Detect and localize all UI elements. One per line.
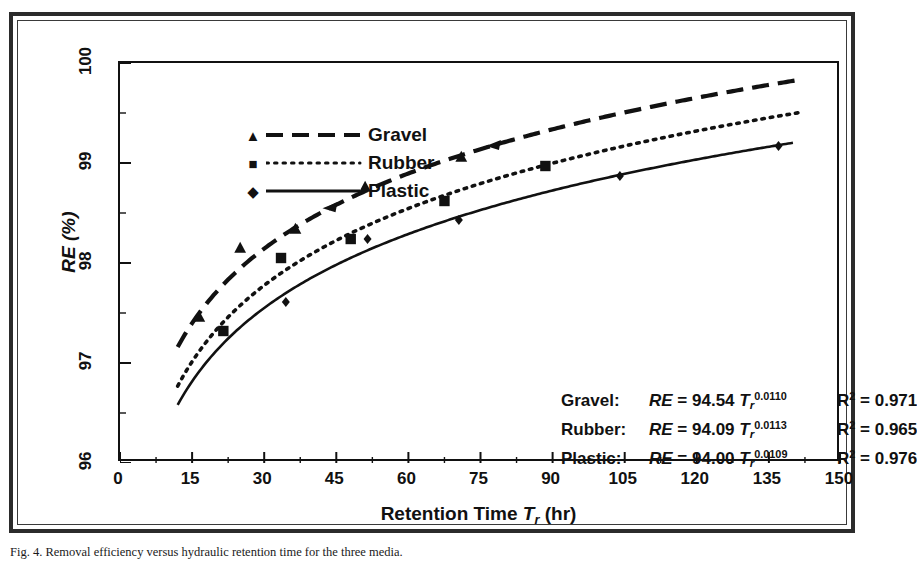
x-tick-label-30: 30 [239, 469, 285, 489]
data-point-plastic [616, 171, 624, 181]
series-curve-gravel [178, 79, 803, 347]
equation-coefficient: 94.00 [692, 449, 735, 468]
data-point-rubber [540, 161, 550, 171]
y-tick-label-97: 97 [76, 340, 96, 382]
y-tick-label-98: 98 [76, 240, 96, 282]
chart-legend: ▲Gravel■Rubber◆Plastic [242, 121, 435, 205]
triangle-marker-icon: ▲ [242, 128, 264, 143]
x-axis-title-subscript: r [534, 512, 539, 527]
y-tick-label-100: 100 [76, 40, 96, 82]
r-squared-value: = 0.976 [860, 449, 917, 468]
equation-series-name: Plastic: [561, 449, 649, 469]
diamond-marker-icon: ◆ [242, 184, 264, 199]
equation-r-squared: R2 = 0.976 [837, 448, 917, 469]
data-point-rubber [346, 234, 356, 244]
x-tick-label-90: 90 [528, 469, 574, 489]
plot-area: ▲Gravel■Rubber◆Plastic Gravel:RE = 94.54… [118, 61, 839, 461]
legend-line-sample-solid [266, 184, 362, 198]
x-axis-title-unit: (hr) [545, 503, 577, 524]
x-tick-label-75: 75 [456, 469, 502, 489]
equation-coefficient: 94.09 [692, 420, 735, 439]
equation-variable: T [739, 449, 749, 468]
equation-series-name: Rubber: [561, 420, 649, 440]
equation-expression: RE = 94.54 Tr0.0110 [649, 390, 837, 411]
equation-exponent: 0.0110 [754, 390, 787, 402]
r-squared-label: R [837, 391, 849, 410]
x-axis-title-variable: T [523, 503, 535, 524]
equation-equals: = [677, 420, 687, 439]
equation-lhs: RE [649, 391, 673, 410]
figure-caption: Fig. 4. Removal efficiency versus hydrau… [10, 545, 861, 560]
legend-line-sample-dotted [266, 156, 362, 170]
equation-lhs: RE [649, 420, 673, 439]
data-point-plastic [775, 141, 783, 151]
r-squared-superscript: 2 [849, 448, 855, 460]
r-squared-value: = 0.965 [860, 420, 917, 439]
x-tick-label-120: 120 [672, 469, 718, 489]
y-tick-label-99: 99 [76, 140, 96, 182]
square-marker-icon: ■ [242, 156, 264, 171]
x-axis-title-text: Retention Time [381, 503, 518, 524]
x-tick-label-45: 45 [311, 469, 357, 489]
equation-equals: = [677, 391, 687, 410]
legend-item-rubber: ■Rubber [242, 149, 435, 177]
figure-frame: RE (%) 10099989796 ▲Gravel■Rubber◆Plasti… [9, 12, 855, 533]
legend-label-gravel: Gravel [368, 124, 427, 146]
x-tick-label-135: 135 [744, 469, 790, 489]
legend-label-rubber: Rubber [368, 152, 435, 174]
legend-label-plastic: Plastic [368, 180, 429, 202]
equation-series-name: Gravel: [561, 391, 649, 411]
equation-variable: T [739, 420, 749, 439]
x-axis-title: Retention Time Tr (hr) [118, 503, 839, 527]
legend-line-sample-dashed [266, 128, 362, 142]
data-point-rubber [276, 253, 286, 263]
equation-expression: RE = 94.00 Tr0.0109 [649, 448, 837, 469]
equation-r-squared: R2 = 0.965 [837, 419, 917, 440]
y-tick-label-96: 96 [76, 440, 96, 482]
x-tick-label-0: 0 [95, 469, 141, 489]
r-squared-superscript: 2 [849, 419, 855, 431]
r-squared-label: R [837, 420, 849, 439]
equation-exponent: 0.0113 [754, 419, 787, 431]
data-point-plastic [364, 234, 372, 244]
x-tick-label-105: 105 [600, 469, 646, 489]
equation-lhs: RE [649, 449, 673, 468]
data-point-rubber [439, 196, 449, 206]
legend-item-gravel: ▲Gravel [242, 121, 435, 149]
data-point-gravel [234, 242, 246, 253]
equation-equals: = [677, 449, 687, 468]
data-point-rubber [218, 326, 228, 336]
x-tick-label-15: 15 [167, 469, 213, 489]
data-point-plastic [282, 297, 290, 307]
equation-annotations: Gravel:RE = 94.54 Tr0.0110R2 = 0.971Rubb… [561, 390, 917, 477]
x-tick-label-150: 150 [816, 469, 862, 489]
equation-variable: T [739, 391, 749, 410]
equation-exponent: 0.0109 [754, 448, 787, 460]
equation-expression: RE = 94.09 Tr0.0113 [649, 419, 837, 440]
x-tick-label-60: 60 [383, 469, 429, 489]
equation-row-rubber: Rubber:RE = 94.09 Tr0.0113R2 = 0.965 [561, 419, 917, 448]
legend-item-plastic: ◆Plastic [242, 177, 435, 205]
equation-coefficient: 94.54 [692, 391, 735, 410]
equation-r-squared: R2 = 0.971 [837, 390, 917, 411]
r-squared-label: R [837, 449, 849, 468]
r-squared-value: = 0.971 [860, 391, 917, 410]
r-squared-superscript: 2 [849, 390, 855, 402]
equation-row-gravel: Gravel:RE = 94.54 Tr0.0110R2 = 0.971 [561, 390, 917, 419]
